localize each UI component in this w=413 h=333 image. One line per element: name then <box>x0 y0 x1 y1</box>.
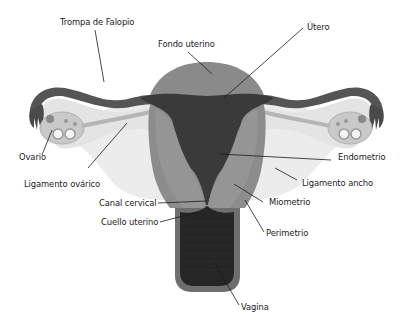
right-ovary <box>328 112 372 144</box>
uterus-diagram: Trompa de Falopio Fondo uterino Útero Ov… <box>0 0 413 333</box>
label-ligamento-ancho: Ligamento ancho <box>302 178 373 188</box>
label-canal-cervical: Canal cervical <box>99 198 157 208</box>
anatomy-illustration <box>0 0 413 333</box>
label-perimetrio: Perimetrio <box>266 228 308 238</box>
label-ligamento-ovarico: Ligamento ovárico <box>24 179 100 189</box>
label-vagina: Vagina <box>241 302 269 312</box>
label-trompa-de-falopio: Trompa de Falopio <box>60 17 134 27</box>
label-ovario: Ovario <box>19 152 46 162</box>
label-fondo-uterino: Fondo uterino <box>158 39 215 49</box>
label-utero: Útero <box>307 22 329 32</box>
left-ovary <box>40 112 84 144</box>
label-endometrio: Endometrio <box>338 152 386 162</box>
label-cuello-uterino: Cuello uterino <box>101 217 158 227</box>
label-miometrio: Miometrio <box>269 197 310 207</box>
